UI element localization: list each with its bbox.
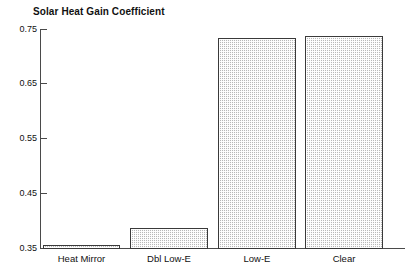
- y-tick-mark-045: [41, 193, 47, 194]
- y-tick-label-055: 0.55: [0, 134, 37, 143]
- y-tick-label-035-text: 0.35: [5, 244, 37, 253]
- chart-title: Solar Heat Gain Coefficient: [33, 6, 165, 17]
- bar-heat-mirror: [43, 245, 120, 249]
- category-label-heat-mirror: Heat Mirror: [43, 253, 120, 265]
- y-tick-label-045: 0.45: [0, 189, 37, 198]
- y-tick-mark-065: [41, 83, 47, 84]
- bar-low-e: [218, 38, 296, 249]
- y-tick-label-035: 0.35: [0, 244, 37, 253]
- bar-chart: Solar Heat Gain Coefficient 0.75 0.65 0.…: [0, 0, 415, 274]
- y-tick-label-045-text: 0.45: [5, 189, 37, 198]
- y-tick-mark-055: [41, 138, 47, 139]
- category-label-dbl-low-e: Dbl Low-E: [130, 253, 208, 265]
- category-label-low-e: Low-E: [218, 253, 296, 265]
- y-tick-label-065: 0.65: [0, 79, 37, 88]
- y-tick-label-055-text: 0.55: [5, 134, 37, 143]
- category-label-clear: Clear: [305, 253, 383, 265]
- y-tick-label-075: 0.75: [0, 25, 37, 34]
- bar-dbl-low-e: [130, 228, 208, 249]
- y-axis-line: [40, 29, 41, 249]
- y-tick-label-065-text: 0.65: [5, 79, 37, 88]
- y-tick-label-075-text: 0.75: [5, 25, 37, 34]
- bar-clear: [305, 36, 383, 249]
- y-tick-mark-075: [41, 29, 47, 30]
